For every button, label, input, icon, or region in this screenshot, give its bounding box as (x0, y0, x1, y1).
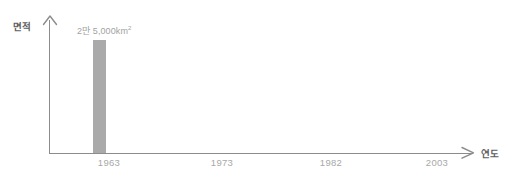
plot-area (50, 20, 473, 153)
x-tick-label-2003: 2003 (426, 157, 448, 168)
bar-chart: 면적 연도 2만 5,000km2 1963 1973 1982 2003 (0, 0, 512, 183)
x-tick-label-1973: 1973 (211, 157, 233, 168)
bar-1963 (93, 40, 106, 153)
x-tick-label-1982: 1982 (320, 157, 342, 168)
bar-value-label-1963: 2만 5,000km2 (77, 24, 131, 37)
bar-value-unit: km (116, 26, 128, 36)
bar-value-unit-exponent: 2 (128, 25, 131, 31)
bar-value-text: 2만 5,000 (77, 26, 116, 36)
x-tick-label-1963: 1963 (98, 157, 120, 168)
y-axis-title: 면적 (13, 19, 31, 33)
x-axis-title: 연도 (481, 146, 499, 160)
